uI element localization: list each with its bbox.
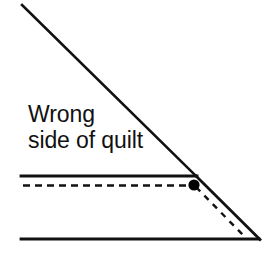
label-line-1: Wrong xyxy=(28,101,143,127)
corner-stitch-dashed-line xyxy=(196,187,243,235)
quilt-corner-diagram: Wrong side of quilt xyxy=(0,0,277,255)
corner-diagonal-line xyxy=(196,176,260,240)
wrong-side-label: Wrong side of quilt xyxy=(28,101,143,153)
pivot-point-dot xyxy=(188,179,199,190)
label-line-2: side of quilt xyxy=(28,127,143,153)
